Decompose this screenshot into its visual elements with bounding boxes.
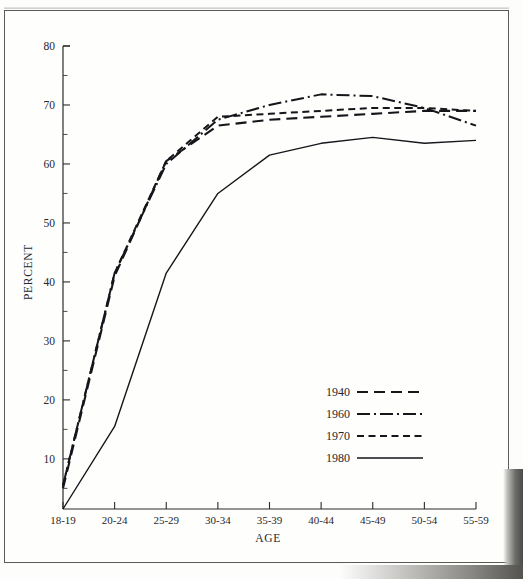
scan-shadow-artifact [503, 469, 523, 579]
x-axis-title: AGE [255, 532, 281, 544]
y-axis-tick-labels: 1020304050607080 [44, 40, 56, 465]
x-tick-label: 20-24 [102, 514, 128, 526]
y-tick-label: 60 [44, 158, 56, 170]
x-tick-label: 50-54 [412, 514, 438, 526]
series-line-1980 [63, 137, 476, 509]
series-line-1970 [63, 108, 476, 485]
x-tick-label: 30-34 [205, 514, 231, 526]
scan-shadow-artifact-bottom [0, 565, 523, 579]
axes [63, 46, 476, 509]
x-tick-label: 25-29 [153, 514, 179, 526]
y-tick-label: 70 [44, 99, 56, 111]
x-axis-ticks [63, 502, 476, 509]
x-axis-tick-labels: 18-1920-2425-2930-3435-3940-4445-4950-54… [50, 514, 489, 526]
y-tick-label: 40 [44, 276, 56, 288]
series-line-1960 [63, 94, 476, 485]
x-tick-label: 45-49 [360, 514, 386, 526]
data-series-group [63, 94, 476, 509]
line-chart: 1020304050607080 18-1920-2425-2930-3435-… [0, 0, 523, 579]
y-axis-ticks [63, 46, 70, 488]
chart-legend: 1940196019701980 [326, 385, 423, 465]
legend-label-1960: 1960 [326, 407, 350, 421]
x-tick-label: 55-59 [463, 514, 489, 526]
y-tick-label: 30 [44, 335, 56, 347]
x-tick-label: 40-44 [308, 514, 334, 526]
legend-label-1940: 1940 [326, 385, 350, 399]
legend-label-1970: 1970 [326, 429, 350, 443]
y-tick-label: 20 [44, 394, 56, 406]
series-line-1940 [63, 111, 476, 488]
legend-label-1980: 1980 [326, 451, 350, 465]
x-tick-label: 18-19 [50, 514, 76, 526]
y-axis-title: PERCENT [22, 244, 34, 300]
figure-page: 1020304050607080 18-1920-2425-2930-3435-… [0, 0, 523, 579]
y-tick-label: 50 [44, 217, 56, 229]
x-tick-label: 35-39 [257, 514, 283, 526]
y-tick-label: 80 [44, 40, 56, 52]
y-tick-label: 10 [44, 453, 56, 465]
